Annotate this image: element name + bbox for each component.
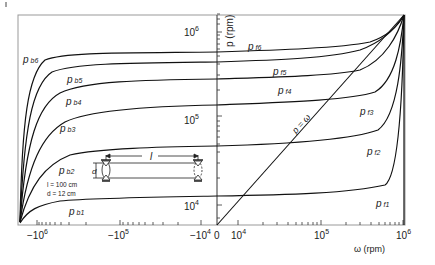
l-parameter: l = 100 cm xyxy=(47,181,77,188)
x-axis-label: ω (rpm) xyxy=(354,244,385,254)
label-pf2: pf2 xyxy=(366,146,381,157)
label-pb6: pb6 xyxy=(22,54,38,65)
plot-frame xyxy=(18,15,405,225)
label-pf4: pf4 xyxy=(277,85,292,96)
label-pb1: pb1 xyxy=(68,206,84,217)
ytick-1e6: 106 xyxy=(184,25,199,38)
x-tick-labels: −106 −105 −104 0 104 105 106 xyxy=(27,228,411,241)
curve-pf5 xyxy=(217,15,404,62)
y-tick-labels: 106 105 104 xyxy=(184,25,199,212)
label-pb4: pb4 xyxy=(65,96,81,107)
xtick-m1e4: −104 xyxy=(190,228,211,241)
label-pf3: pf3 xyxy=(359,106,374,117)
campbell-diagram: l d l = 100 cm d = 12 cm pb6 pb5 pb4 pb3… xyxy=(0,0,435,265)
rotor-inset-diagram xyxy=(93,154,203,181)
label-pb2: pb2 xyxy=(58,165,74,176)
d-parameter: d = 12 cm xyxy=(47,190,76,197)
inset-l-label: l xyxy=(150,151,153,162)
ytick-1e5: 105 xyxy=(184,113,199,126)
backward-curves xyxy=(20,52,217,223)
curve-pf2 xyxy=(217,15,404,146)
xtick-1e6: 106 xyxy=(396,228,411,241)
label-pf5: pf5 xyxy=(272,66,287,77)
y-axis-label: p (rpm) xyxy=(224,15,235,47)
xtick-zero: 0 xyxy=(214,230,220,241)
label-pb3: pb3 xyxy=(59,123,75,134)
xtick-1e5: 105 xyxy=(314,228,329,241)
x-axis-ticks xyxy=(37,220,403,225)
ytick-1e4: 104 xyxy=(184,199,199,212)
xtick-m1e5: −105 xyxy=(108,228,129,241)
diagonal-label: p = ω xyxy=(289,112,312,136)
inset-d-label: d xyxy=(92,167,97,176)
xtick-1e4: 104 xyxy=(231,228,246,241)
label-pf1: pf1 xyxy=(375,198,390,209)
label-pb5: pb5 xyxy=(66,74,82,85)
xtick-m1e6: −106 xyxy=(27,228,48,241)
y-axis-ticks xyxy=(217,14,222,218)
